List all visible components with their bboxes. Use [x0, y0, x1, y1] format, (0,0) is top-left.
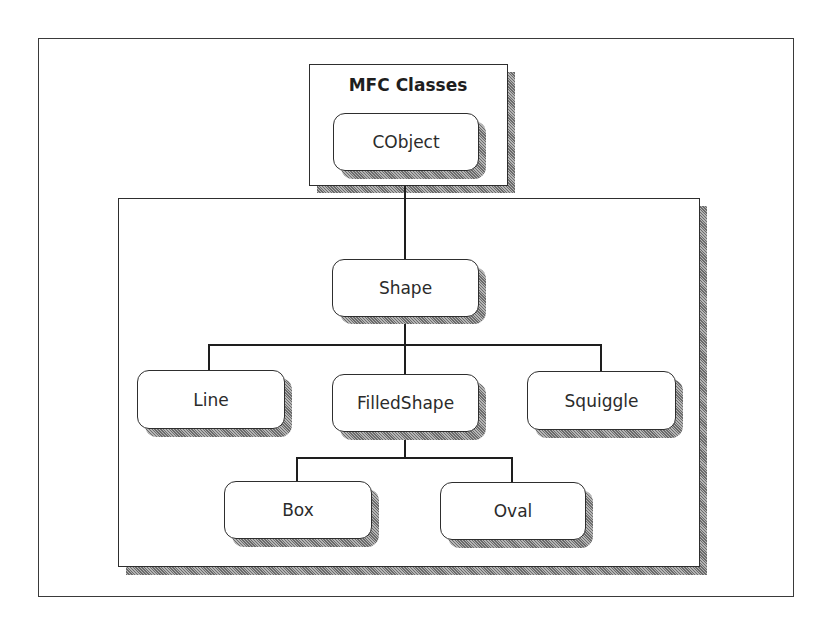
connector-cobject-shape: [404, 186, 406, 260]
line-label: Line: [193, 390, 228, 410]
connector-to-oval: [511, 457, 513, 483]
mfc-group-title: MFC Classes: [309, 75, 507, 95]
oval-label: Oval: [494, 501, 533, 521]
squiggle-label: Squiggle: [565, 391, 639, 411]
filledshape-node: FilledShape: [332, 374, 479, 432]
box-node: Box: [224, 481, 372, 539]
line-node: Line: [137, 370, 285, 429]
filledshape-label: FilledShape: [357, 393, 454, 413]
connector-to-box: [296, 457, 298, 482]
shape-node: Shape: [332, 259, 479, 317]
squiggle-node: Squiggle: [527, 371, 676, 430]
box-label: Box: [282, 500, 314, 520]
cobject-node: CObject: [333, 113, 479, 171]
connector-shape-children-bar: [208, 344, 602, 346]
connector-to-squiggle: [600, 344, 602, 372]
connector-to-line: [208, 344, 210, 371]
oval-node: Oval: [440, 482, 586, 540]
shape-label: Shape: [379, 278, 432, 298]
cobject-label: CObject: [372, 132, 439, 152]
connector-filledshape-children-bar: [296, 457, 513, 459]
